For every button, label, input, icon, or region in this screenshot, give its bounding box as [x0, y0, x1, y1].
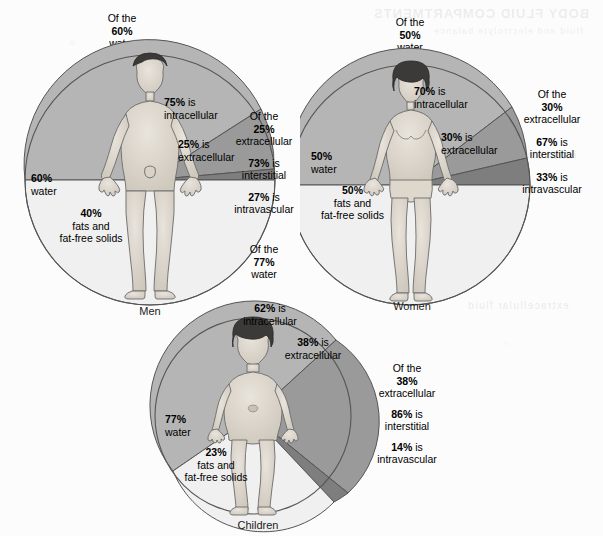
- children-intravascular-is: is: [412, 441, 423, 453]
- men-intracellular-label: 75% is intracellular: [164, 96, 218, 121]
- children-interstitial-is: is: [412, 408, 423, 420]
- women-intravascular-pct: 33%: [536, 171, 557, 183]
- children-solids-pct: 23%: [161, 446, 271, 459]
- children-intracellular-label: 62% is intracellular: [220, 302, 320, 327]
- children-solids-line2: fat-free solids: [161, 471, 271, 484]
- women-solids-label: 50% fats and fat-free solids: [300, 184, 405, 222]
- men-interstitial-pct: 73%: [248, 157, 269, 169]
- men-extracellular-pct: 25%: [178, 138, 199, 150]
- men-solids-line2: fat-free solids: [36, 232, 146, 245]
- children-side-line1: Of the: [357, 362, 457, 375]
- children-extracellular-is: is: [318, 336, 329, 348]
- men-intracellular-pct: 75%: [164, 96, 185, 108]
- men-interstitial-text: interstitial: [216, 169, 312, 182]
- children-side-pct: 38%: [357, 375, 457, 388]
- children-solids-line1: fats and: [161, 459, 271, 472]
- children-intravascular-pct: 14%: [391, 441, 412, 453]
- children-extracellular-pct: 38%: [297, 336, 318, 348]
- women-intravascular-is: is: [557, 171, 568, 183]
- women-extracellular-is: is: [462, 131, 473, 143]
- panel-women: Of the 50% water: [300, 0, 603, 320]
- women-solids-line2: fat-free solids: [300, 209, 405, 222]
- men-solids-pct: 40%: [36, 207, 146, 220]
- women-intracellular-text: intracellular: [414, 98, 468, 111]
- women-extracellular-pct: 30%: [441, 131, 462, 143]
- women-extracellular-text: extracellular: [441, 144, 498, 157]
- children-interstitial-pct: 86%: [391, 408, 412, 420]
- children-intracellular-text: intracellular: [220, 315, 320, 328]
- children-side-line3: extracellular: [357, 387, 457, 400]
- children-side-callout: Of the 38% extracellular 86% is intersti…: [357, 362, 457, 466]
- women-water-text: water: [311, 163, 337, 176]
- women-side-line3: extracellular: [504, 113, 600, 126]
- children-top-callout-line1: Of the: [216, 243, 312, 256]
- women-side-callout: Of the 30% extracellular 67% is intersti…: [504, 88, 600, 196]
- children-top-callout-line3: water: [216, 268, 312, 281]
- men-water-text: water: [31, 185, 57, 198]
- children-water-label: 77% water: [165, 413, 191, 438]
- men-solids-label: 40% fats and fat-free solids: [36, 207, 146, 245]
- children-water-text: water: [165, 426, 191, 439]
- men-intravascular-pct: 27%: [248, 191, 269, 203]
- women-side-pct: 30%: [504, 101, 600, 114]
- children-caption: Children: [198, 519, 318, 531]
- men-side-line3: extracellular: [216, 135, 312, 148]
- men-intravascular-is: is: [269, 191, 280, 203]
- men-extracellular-is: is: [199, 138, 210, 150]
- children-solids-label: 23% fats and fat-free solids: [161, 446, 271, 484]
- children-top-callout: Of the 77% water: [216, 243, 312, 281]
- women-intracellular-label: 70% is intracellular: [414, 85, 468, 110]
- women-water-pct: 50%: [311, 150, 337, 163]
- men-side-pct: 25%: [216, 123, 312, 136]
- men-water-pct: 60%: [31, 172, 57, 185]
- children-top-callout-pct: 77%: [216, 256, 312, 269]
- men-intracellular-is: is: [185, 96, 196, 108]
- children-intracellular-is: is: [275, 302, 286, 314]
- women-interstitial-text: interstitial: [504, 148, 600, 161]
- men-intravascular-text: intravascular: [216, 203, 312, 216]
- children-interstitial-text: interstitial: [357, 420, 457, 433]
- men-side-callout: Of the 25% extracellular 73% is intersti…: [216, 110, 312, 216]
- men-interstitial-is: is: [269, 157, 280, 169]
- women-extracellular-label: 30% is extracellular: [441, 131, 498, 156]
- women-water-label: 50% water: [311, 150, 337, 175]
- children-intracellular-pct: 62%: [254, 302, 275, 314]
- children-intravascular-text: intravascular: [357, 453, 457, 466]
- panel-children: 62% is intracellular 38% is extracellula…: [140, 280, 470, 536]
- women-interstitial-pct: 67%: [536, 136, 557, 148]
- children-extracellular-label: 38% is extracellular: [263, 336, 363, 361]
- women-side-line1: Of the: [504, 88, 600, 101]
- women-solids-pct: 50%: [300, 184, 405, 197]
- women-intracellular-pct: 70%: [414, 85, 435, 97]
- men-water-label: 60% water: [31, 172, 57, 197]
- women-interstitial-is: is: [557, 136, 568, 148]
- body-fluid-figure: Of the 60% water: [0, 0, 603, 536]
- women-intravascular-text: intravascular: [504, 183, 600, 196]
- men-intracellular-text: intracellular: [164, 109, 218, 122]
- children-extracellular-text: extracellular: [263, 349, 363, 362]
- men-solids-line1: fats and: [36, 220, 146, 233]
- women-solids-line1: fats and: [300, 197, 405, 210]
- children-water-pct: 77%: [165, 413, 191, 426]
- men-side-line1: Of the: [216, 110, 312, 123]
- women-intracellular-is: is: [435, 85, 446, 97]
